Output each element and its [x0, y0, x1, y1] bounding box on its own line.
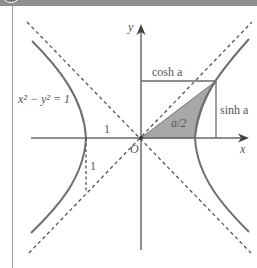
- cosh-label: cosh a: [152, 65, 183, 79]
- origin-label: O: [130, 142, 139, 156]
- x-axis-label: x: [239, 142, 246, 156]
- unit-label-vertical: 1: [90, 159, 96, 173]
- unit-label-horizontal: 1: [104, 122, 110, 136]
- origin-point: [139, 136, 143, 140]
- y-axis-label: y: [127, 20, 134, 34]
- area-label: a/2: [171, 116, 186, 130]
- equation-label: x² − y² = 1: [17, 92, 70, 106]
- hyperbola-left-branch: [31, 41, 86, 233]
- hyperbola-diagram: y x O cosh a sinh a a/2 x² − y² = 1 1 1: [0, 0, 257, 268]
- sinh-label: sinh a: [220, 103, 249, 117]
